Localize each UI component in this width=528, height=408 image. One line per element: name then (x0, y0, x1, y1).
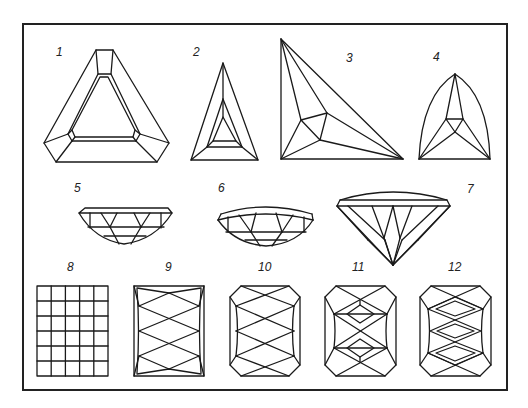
figure-6-profile-domed-crown (218, 207, 313, 246)
figure-11-octagon-double-lozenge (325, 286, 396, 376)
gem-cuts-drawing (0, 0, 528, 408)
figure-1-triangle-step-cut (44, 50, 169, 162)
figure-5-profile-flat-crown (79, 208, 172, 244)
figure-12-octagon-triple-lozenge (420, 286, 491, 376)
figure-8-grid (37, 286, 108, 376)
figure-10-octagon-scissors (230, 286, 300, 376)
figure-4-curved-triangle (419, 74, 490, 159)
figure-3-scalene-triangle (281, 39, 403, 159)
figure-7-brilliant-profile (337, 192, 450, 265)
figure-2-elongated-triangle (191, 63, 258, 160)
figure-9-rect-scissors (134, 286, 204, 376)
